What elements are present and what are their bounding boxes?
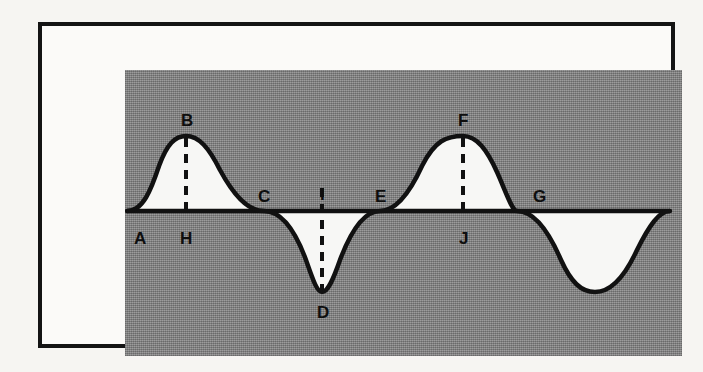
point-label-h: H <box>180 230 192 247</box>
point-label-i: I <box>320 186 325 203</box>
point-label-d: D <box>317 304 329 321</box>
point-label-e: E <box>375 188 386 205</box>
point-label-b: B <box>181 112 193 129</box>
figure-frame: A B C D E F G H I J <box>38 22 675 348</box>
wave-diagram-panel: A B C D E F G H I J <box>125 70 682 356</box>
page-background: A B C D E F G H I J <box>0 0 703 372</box>
point-label-f: F <box>458 112 468 129</box>
point-label-j: J <box>459 230 468 247</box>
point-label-a: A <box>134 230 146 247</box>
point-label-c: C <box>258 188 270 205</box>
wave-svg <box>125 70 682 356</box>
point-label-g: G <box>533 188 546 205</box>
